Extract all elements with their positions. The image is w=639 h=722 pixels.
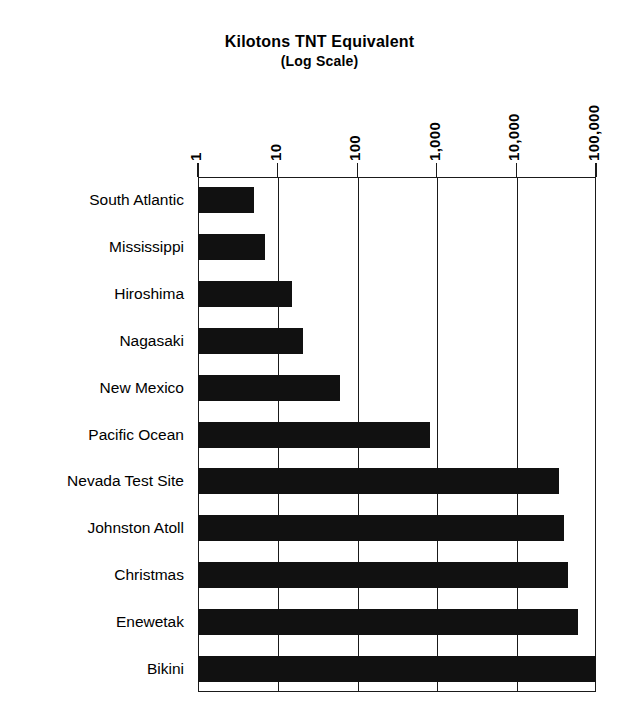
category-label-south-atlantic: South Atlantic [89, 187, 184, 213]
bar-nevada-test-site[interactable] [198, 468, 559, 494]
category-label-nevada-test-site: Nevada Test Site [67, 468, 184, 494]
x-axis-tick-layer: 1101001,00010,000100,000 [198, 163, 596, 177]
category-label-layer: South AtlanticMississippiHiroshimaNagasa… [0, 177, 192, 692]
bar-bikini[interactable] [198, 656, 596, 682]
tick-label-1: 1 [187, 152, 204, 161]
tick-mark-1000 [436, 163, 437, 177]
chart-title-block: Kilotons TNT Equivalent (Log Scale) [0, 32, 639, 71]
tick-mark-10 [277, 163, 278, 177]
category-label-nagasaki: Nagasaki [119, 328, 184, 354]
tick-mark-100 [357, 163, 358, 177]
category-label-mississippi: Mississippi [109, 234, 184, 260]
bar-hiroshima[interactable] [198, 281, 292, 307]
category-label-christmas: Christmas [114, 562, 184, 588]
tick-mark-100000 [595, 163, 596, 177]
tick-label-1000: 1,000 [426, 122, 443, 161]
category-label-enewetak: Enewetak [116, 609, 184, 635]
tick-mark-1 [197, 163, 198, 177]
category-label-pacific-ocean: Pacific Ocean [88, 422, 184, 448]
chart-page: { "chart": { "title": "Kilotons TNT Equi… [0, 0, 639, 722]
category-label-bikini: Bikini [147, 656, 184, 682]
category-label-hiroshima: Hiroshima [114, 281, 184, 307]
category-label-new-mexico: New Mexico [100, 375, 184, 401]
tick-label-100000: 100,000 [585, 105, 602, 161]
bar-nagasaki[interactable] [198, 328, 303, 354]
chart-subtitle: (Log Scale) [0, 52, 639, 71]
bar-johnston-atoll[interactable] [198, 515, 564, 541]
bar-christmas[interactable] [198, 562, 568, 588]
category-label-johnston-atoll: Johnston Atoll [87, 515, 184, 541]
bar-mississippi[interactable] [198, 234, 265, 260]
bar-enewetak[interactable] [198, 609, 578, 635]
tick-label-10000: 10,000 [505, 113, 522, 161]
bar-south-atlantic[interactable] [198, 187, 254, 213]
page-title: Kilotons TNT Equivalent [0, 32, 639, 52]
tick-label-100: 100 [346, 135, 363, 161]
tick-label-10: 10 [267, 144, 284, 161]
tick-mark-10000 [516, 163, 517, 177]
bar-new-mexico[interactable] [198, 375, 340, 401]
bar-pacific-ocean[interactable] [198, 422, 430, 448]
bars-layer [198, 177, 596, 692]
